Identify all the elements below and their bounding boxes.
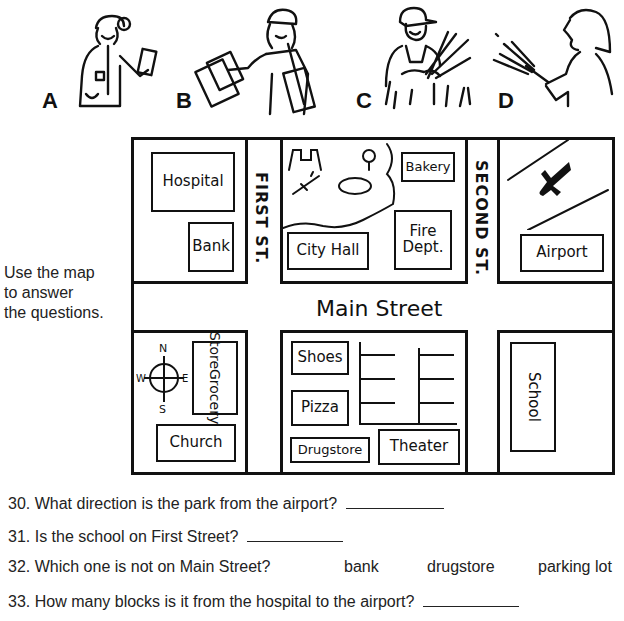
answer-blank-31[interactable]: [247, 527, 343, 542]
building-shoes: Shoes: [291, 341, 349, 375]
firefighter-illustration-icon: [486, 4, 620, 108]
tree-icon: [363, 150, 375, 162]
question-text: Is the school on First Street?: [35, 528, 239, 545]
swing-set-icon: [289, 150, 321, 170]
question-number: 32.: [8, 558, 30, 575]
farmer-illustration-icon: [376, 4, 486, 112]
choice-bank[interactable]: bank: [344, 558, 379, 576]
airplane-icon: [533, 158, 573, 196]
building-city-hall: City Hall: [287, 232, 369, 270]
grocery-store-label-line: Store: [208, 332, 223, 369]
seesaw-icon: [293, 172, 319, 194]
building-hospital: Hospital: [151, 152, 235, 212]
bakery-label: Bakery: [406, 160, 451, 174]
compass-rose-icon: N S E W: [136, 340, 192, 414]
building-airport: Airport: [520, 234, 604, 272]
answer-blank-33[interactable]: [423, 592, 519, 607]
doctor-illustration-icon: [68, 6, 168, 110]
building-drugstore: Drugstore: [290, 437, 370, 463]
grocery-store-label-line: Grocery: [208, 369, 223, 424]
building-pizza: Pizza: [291, 390, 349, 426]
bank-label: Bank: [192, 239, 230, 255]
fire-dept-label: Dept.: [403, 240, 444, 256]
question-31: 31. Is the school on First Street?: [8, 527, 343, 546]
pizza-label: Pizza: [301, 400, 339, 416]
instructions-line: the questions.: [4, 303, 104, 323]
building-school: School: [510, 342, 556, 452]
question-number: 30.: [8, 495, 30, 512]
building-bakery: Bakery: [401, 152, 455, 182]
pond-icon: [339, 178, 371, 194]
instructions-text: Use the map to answer the questions.: [4, 263, 104, 323]
building-fire-dept: Fire Dept.: [394, 210, 452, 270]
choice-drugstore[interactable]: drugstore: [427, 558, 495, 576]
figure-label-a: A: [42, 88, 58, 114]
instructions-line: Use the map: [4, 263, 104, 283]
answer-blank-30[interactable]: [346, 494, 444, 509]
first-street-label: FIRST ST.: [252, 172, 271, 264]
hospital-label: Hospital: [162, 174, 223, 190]
church-label: Church: [169, 435, 222, 451]
theater-label: Theater: [390, 439, 448, 455]
question-30: 30. What direction is the park from the …: [8, 494, 444, 513]
svg-text:S: S: [159, 403, 166, 414]
building-theater: Theater: [378, 429, 460, 465]
question-33: 33. How many blocks is it from the hospi…: [8, 592, 519, 611]
question-text: How many blocks is it from the hospital …: [35, 593, 415, 610]
second-street-label: SECOND ST.: [472, 160, 491, 276]
question-text: Which one is not on Main Street?: [35, 558, 271, 575]
svg-text:W: W: [136, 373, 146, 384]
city-hall-label: City Hall: [297, 243, 360, 259]
question-number: 33.: [8, 593, 30, 610]
figure-label-b: B: [176, 88, 192, 114]
figure-label-c: C: [356, 88, 372, 114]
choice-parking-lot[interactable]: parking lot: [538, 558, 612, 576]
grocery-store-label: Grocery Store: [208, 332, 223, 424]
svg-text:N: N: [159, 342, 167, 355]
question-32: 32. Which one is not on Main Street?: [8, 558, 270, 576]
main-street-label: Main Street: [316, 296, 442, 321]
school-label: School: [525, 372, 541, 422]
drugstore-label: Drugstore: [298, 443, 363, 457]
question-text: What direction is the park from the airp…: [35, 495, 337, 512]
building-grocery-store: Grocery Store: [192, 341, 238, 415]
question-number: 31.: [8, 528, 30, 545]
instructions-line: to answer: [4, 283, 104, 303]
airport-label: Airport: [536, 245, 587, 261]
mail-carrier-illustration-icon: [192, 4, 322, 116]
building-church: Church: [156, 424, 236, 462]
svg-text:E: E: [182, 373, 188, 384]
building-bank: Bank: [188, 222, 234, 272]
shoes-label: Shoes: [297, 350, 342, 366]
